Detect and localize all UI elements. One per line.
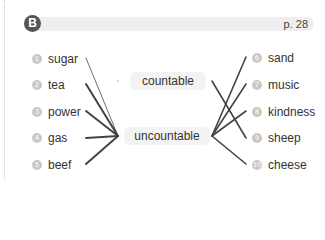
category-countable: countable xyxy=(130,72,206,90)
word-label: sheep xyxy=(268,131,301,145)
right-item-9: 9sheep xyxy=(252,131,301,145)
left-item-5: 5beef xyxy=(32,158,71,172)
word-label: power xyxy=(48,105,81,119)
category-uncountable: uncountable xyxy=(124,127,210,145)
word-label: sand xyxy=(268,51,294,65)
word-label: kindness xyxy=(268,105,315,119)
right-item-6: 6sand xyxy=(252,51,294,65)
number-badge: 6 xyxy=(252,53,262,63)
number-badge: 5 xyxy=(32,160,42,170)
number-badge: 10 xyxy=(252,160,262,170)
number-badge: 3 xyxy=(32,107,42,117)
word-label: gas xyxy=(48,131,67,145)
number-badge: 4 xyxy=(32,133,42,143)
word-label: tea xyxy=(48,78,65,92)
right-item-8: 8kindness xyxy=(252,105,315,119)
number-badge: 1 xyxy=(32,54,42,64)
right-item-7: 7music xyxy=(252,78,299,92)
number-badge: 2 xyxy=(32,80,42,90)
number-badge: 7 xyxy=(252,80,262,90)
word-label: sugar xyxy=(48,52,78,66)
left-item-3: 3power xyxy=(32,105,81,119)
word-label: cheese xyxy=(268,158,307,172)
number-badge: 9 xyxy=(252,133,262,143)
number-badge: 8 xyxy=(252,107,262,117)
left-item-4: 4gas xyxy=(32,131,67,145)
left-item-1: 1sugar xyxy=(32,52,78,66)
right-item-10: 10cheese xyxy=(252,158,307,172)
word-label: music xyxy=(268,78,299,92)
word-label: beef xyxy=(48,158,71,172)
left-item-2: 2tea xyxy=(32,78,65,92)
